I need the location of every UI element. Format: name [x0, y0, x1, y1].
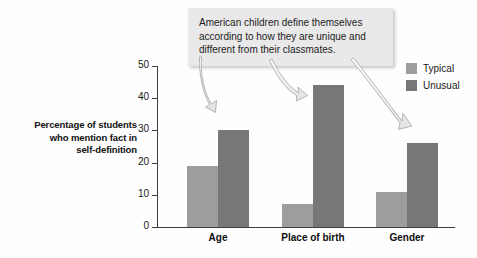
- bar-chart-figure: Percentage of students who mention fact …: [0, 0, 477, 258]
- callout-text: American children define themselves acco…: [199, 17, 366, 55]
- legend-swatch-unusual: [406, 80, 417, 91]
- y-axis-title-line-1: Percentage of students: [34, 119, 137, 130]
- legend-label-unusual: Unusual: [423, 80, 460, 91]
- y-axis-tick-label: 50: [138, 59, 149, 70]
- y-axis-tick: 40: [152, 98, 157, 99]
- x-axis-label-gender: Gender: [347, 232, 467, 243]
- bar-place-of-birth-unusual: [313, 85, 344, 227]
- y-axis-tick-label: 0: [143, 220, 149, 231]
- y-axis-tick: 10: [152, 195, 157, 196]
- y-axis-tick: 30: [152, 130, 157, 131]
- bar-gender-unusual: [407, 143, 438, 227]
- x-axis-line: [157, 227, 455, 228]
- y-axis-tick-label: 10: [138, 188, 149, 199]
- y-axis-tick: 0: [152, 227, 157, 228]
- legend-item-typical: Typical: [406, 60, 460, 77]
- legend-label-typical: Typical: [423, 63, 454, 74]
- y-axis-tick: 20: [152, 163, 157, 164]
- legend-swatch-typical: [406, 63, 417, 74]
- y-axis-title: Percentage of students who mention fact …: [2, 119, 137, 157]
- y-axis-title-line-2: who mention fact in: [50, 132, 137, 143]
- bar-place-of-birth-typical: [282, 204, 313, 227]
- y-axis-line: [157, 66, 158, 227]
- y-axis-tick: 50: [152, 66, 157, 67]
- bar-age-typical: [187, 166, 218, 227]
- y-axis-tick-label: 40: [138, 91, 149, 102]
- y-axis-tick-label: 20: [138, 156, 149, 167]
- y-axis-title-line-3: self-definition: [76, 144, 137, 155]
- y-axis-tick-label: 30: [138, 123, 149, 134]
- legend-item-unusual: Unusual: [406, 77, 460, 94]
- callout-annotation: American children define themselves acco…: [188, 8, 393, 66]
- bar-age-unusual: [218, 130, 249, 227]
- bar-gender-typical: [376, 192, 407, 227]
- chart-legend: TypicalUnusual: [406, 60, 460, 94]
